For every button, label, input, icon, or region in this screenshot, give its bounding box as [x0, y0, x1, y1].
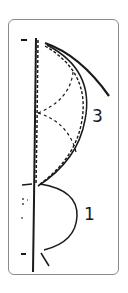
scallop-arc-1: [40, 184, 77, 250]
inner-dashed-lower: [38, 113, 76, 152]
stitch-diagram: [0, 0, 128, 293]
shape-label-1: 1: [84, 206, 95, 223]
inner-dashed-upper: [38, 72, 73, 113]
bottom-diagonal: [41, 253, 49, 266]
vertical-seam-line: [33, 38, 36, 272]
small-dots: [21, 198, 28, 218]
shape-label-3: 3: [92, 108, 103, 125]
scallop-dashed-arc: [40, 46, 83, 184]
middle-tick-mark: [22, 184, 32, 185]
